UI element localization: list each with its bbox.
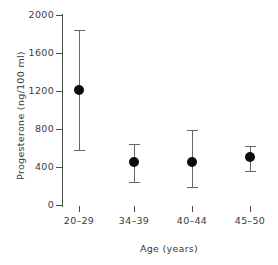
error-bar-cap-upper <box>245 146 256 147</box>
y-axis-tick-1200 <box>56 91 63 92</box>
y-axis-title: Progesterone (ng/100 ml) <box>15 16 26 216</box>
error-bar-cap-upper <box>129 144 140 145</box>
x-axis-tick-label-1: 20–29 <box>49 215 109 226</box>
y-axis-tick-2000 <box>56 15 63 16</box>
y-axis-tick-0 <box>56 205 63 206</box>
x-axis-tick-label-3: 40–44 <box>162 215 222 226</box>
data-point-marker <box>129 157 139 167</box>
progesterone-age-errorbar-chart: 2000 1600 1200 800 400 0 Progesterone (n… <box>0 0 278 265</box>
y-axis-line <box>62 14 63 207</box>
x-axis-tick-3 <box>192 206 193 212</box>
x-axis-title: Age (years) <box>0 243 278 254</box>
x-axis-tick-2 <box>134 206 135 212</box>
data-point-marker <box>245 152 255 162</box>
error-bar-cap-lower <box>129 182 140 183</box>
y-axis-tick-1600 <box>56 53 63 54</box>
x-axis-tick-1 <box>79 206 80 212</box>
y-axis-tick-400 <box>56 167 63 168</box>
error-bar-cap-upper <box>187 130 198 131</box>
x-axis-tick-label-2: 34–39 <box>104 215 164 226</box>
x-axis-tick-label-4: 45–50 <box>220 215 278 226</box>
data-point-marker <box>74 85 84 95</box>
error-bar-cap-lower <box>74 150 85 151</box>
error-bar-cap-upper <box>74 30 85 31</box>
data-point-marker <box>187 157 197 167</box>
x-axis-tick-4 <box>250 206 251 212</box>
y-axis-tick-800 <box>56 129 63 130</box>
error-bar-cap-lower <box>245 171 256 172</box>
error-bar-cap-lower <box>187 187 198 188</box>
